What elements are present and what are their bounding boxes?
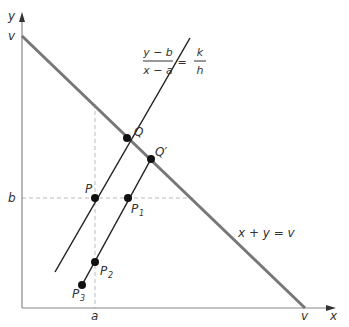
budget-line-label: x + y = v <box>237 226 296 240</box>
point-Q-prime <box>147 155 155 163</box>
label-P: P <box>85 182 93 196</box>
label-P2-sub: 2 <box>108 271 113 280</box>
label-P3: P <box>72 287 80 301</box>
y-intercept-label: v <box>8 29 16 43</box>
slope-numerator: y − b <box>142 46 173 59</box>
rhs-denominator: h <box>197 64 204 77</box>
rhs-numerator: k <box>197 46 204 59</box>
label-P3-sub: 3 <box>80 294 85 303</box>
label-P2: P <box>100 264 108 278</box>
y-axis-arrow-icon <box>19 12 25 22</box>
equals-sign: = <box>177 56 186 69</box>
label-P1-sub: 1 <box>139 209 144 218</box>
label-P1: P <box>131 202 139 216</box>
y-axis-label: y <box>7 9 16 23</box>
diagram-canvas: y v b a v x x + y = v y − b x − a = k h … <box>0 0 349 327</box>
label-Q: Q <box>134 125 143 139</box>
b-label: b <box>8 191 16 205</box>
x-intercept-label: v <box>301 309 309 323</box>
slope-equation: y − b x − a = k h <box>142 46 206 77</box>
label-Q-prime: Q′ <box>155 145 167 159</box>
point-P2 <box>91 258 99 266</box>
slope-denominator: x − a <box>142 64 173 77</box>
x-axis-label: x <box>329 309 338 323</box>
point-Q <box>123 134 131 142</box>
a-label: a <box>91 309 98 323</box>
point-P1 <box>124 194 132 202</box>
slope-line-2 <box>82 159 151 285</box>
